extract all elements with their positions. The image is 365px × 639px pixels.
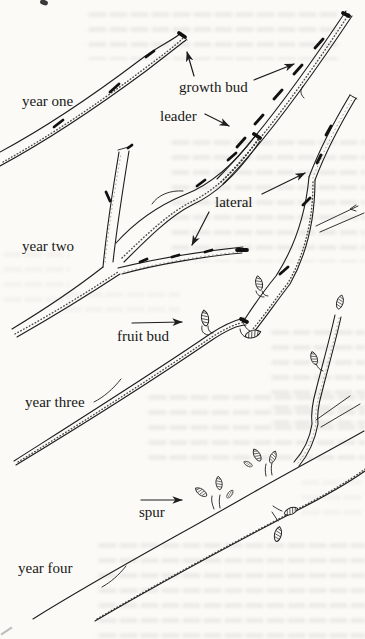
growth-bud-arrow-left	[187, 52, 194, 76]
annotation-label-spur: spur	[139, 504, 165, 520]
growth-bud-tip	[179, 33, 185, 37]
fruit-bud-shape	[244, 328, 261, 339]
branch-development-drawing: year one growth bud leader	[0, 0, 365, 639]
growth-bud-arrow-right	[254, 64, 294, 80]
label-year-four: year four	[18, 560, 73, 576]
year-two-branch	[12, 134, 260, 337]
lateral-arrow-up	[262, 173, 305, 194]
spur-cluster	[194, 476, 235, 509]
label-year-two: year two	[22, 238, 74, 254]
book-figure-page: year one growth bud leader	[0, 0, 365, 639]
pruning-snag	[94, 379, 121, 402]
year-two-right-branch	[243, 95, 364, 332]
lateral-arrow-down	[192, 212, 209, 245]
spur-cluster	[243, 448, 278, 476]
fruit-bud-shape	[335, 294, 345, 310]
annotation-label-lateral: lateral	[215, 194, 252, 210]
annotation-label-growth-bud: growth bud	[179, 79, 248, 95]
label-year-one: year one	[22, 93, 74, 109]
year-four-branch	[33, 431, 365, 621]
fruit-bud-arrow	[132, 322, 182, 323]
bud-shape	[254, 275, 264, 291]
annotation-label-fruit-bud: fruit bud	[117, 328, 170, 344]
leader-arrow	[205, 114, 229, 126]
spur-cluster	[272, 505, 299, 542]
annotation-label-leader: leader	[160, 108, 197, 124]
year-three-right-branch	[294, 294, 360, 466]
label-year-three: year three	[25, 394, 85, 410]
fruit-bud-shape	[309, 351, 319, 366]
growth-bud-tip	[343, 13, 349, 16]
pruning-snag	[102, 566, 126, 587]
branch-tip	[241, 319, 247, 322]
fruit-bud-shape	[200, 310, 209, 327]
